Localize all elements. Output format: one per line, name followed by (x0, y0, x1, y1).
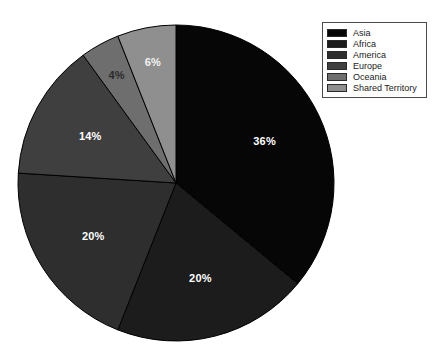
legend-swatch-shared-territory (327, 84, 347, 92)
pie-label-africa: 20% (189, 272, 212, 284)
pie-label-oceania: 4% (108, 69, 124, 81)
legend-swatch-oceania (327, 73, 347, 81)
legend-swatch-asia (327, 29, 347, 37)
legend-label-asia: Asia (353, 28, 371, 38)
legend-swatch-europe (327, 62, 347, 70)
legend-item-oceania[interactable]: Oceania (327, 71, 422, 82)
pie-label-shared-territory: 6% (145, 56, 161, 68)
legend-item-america[interactable]: America (327, 49, 422, 60)
legend-label-africa: Africa (353, 39, 376, 49)
legend-item-asia[interactable]: Asia (327, 27, 422, 38)
legend-label-america: America (353, 50, 386, 60)
legend-item-shared-territory[interactable]: Shared Territory (327, 82, 422, 93)
pie-label-europe: 14% (79, 130, 102, 142)
pie-slices-group (18, 25, 334, 341)
legend-label-europe: Europe (353, 61, 382, 71)
legend-item-africa[interactable]: Africa (327, 38, 422, 49)
legend-swatch-africa (327, 40, 347, 48)
pie-label-asia: 36% (253, 135, 276, 147)
legend-label-shared-territory: Shared Territory (353, 83, 417, 93)
chart-legend: Asia Africa America Europe Oceania Share… (322, 22, 427, 98)
legend-item-europe[interactable]: Europe (327, 60, 422, 71)
legend-label-oceania: Oceania (353, 72, 387, 82)
pie-label-america: 20% (82, 230, 105, 242)
pie-chart-page: 36%20%20%14%4%6% Asia Africa America Eur… (0, 0, 433, 347)
legend-swatch-america (327, 51, 347, 59)
